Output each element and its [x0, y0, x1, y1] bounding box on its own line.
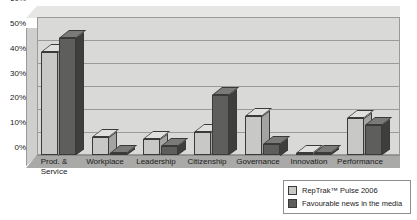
bar-front-face	[143, 139, 160, 155]
x-axis-tick-label: Governance	[229, 157, 287, 167]
bar-reptrak	[92, 137, 109, 155]
chart-legend: RepTrak™ Pulse 2006 Favourable news in t…	[283, 180, 411, 214]
bar-front-face	[110, 153, 127, 155]
x-axis-tick-label: Leadership	[127, 157, 185, 167]
bar-favourable	[161, 146, 178, 155]
legend-label: Favourable news in the media	[302, 199, 402, 208]
x-axis-tick-label: Performance	[331, 157, 389, 167]
bar-front-face	[92, 137, 109, 155]
bar-side-face	[229, 89, 237, 155]
bar-reptrak	[296, 153, 313, 155]
bar-favourable	[59, 38, 76, 155]
x-axis-tick-label: Citizenship	[178, 157, 236, 167]
legend-item: Favourable news in the media	[288, 197, 406, 210]
bar-front-face	[296, 153, 313, 155]
legend-label: RepTrak™ Pulse 2006	[302, 186, 378, 195]
bar-favourable	[110, 153, 127, 155]
bar-front-face	[365, 125, 382, 155]
bar-favourable	[314, 153, 331, 155]
bar-front-face	[59, 38, 76, 155]
x-axis-tick-label: Workplace	[76, 157, 134, 167]
bar-reptrak	[143, 139, 160, 155]
bar-front-face	[245, 116, 262, 155]
bar-front-face	[314, 153, 331, 155]
bar-reptrak	[194, 132, 211, 155]
x-axis-tick-label: Prod. &Service	[25, 157, 83, 177]
bar-reptrak	[347, 118, 364, 155]
bar-side-face	[382, 119, 390, 155]
bar-favourable	[263, 144, 280, 156]
legend-swatch-icon	[288, 186, 297, 195]
bar-front-face	[161, 146, 178, 155]
plot-area: 60%50%40%30%20%10%0%	[0, 0, 417, 175]
bar-chart: 60%50%40%30%20%10%0% Prod. &ServiceWorkp…	[0, 0, 417, 220]
legend-item: RepTrak™ Pulse 2006	[288, 184, 406, 197]
legend-swatch-icon	[288, 199, 297, 208]
bar-favourable	[365, 125, 382, 155]
bar-front-face	[194, 132, 211, 155]
x-axis-tick-label: Innovation	[280, 157, 338, 167]
bar-front-face	[347, 118, 364, 155]
bar-series-group	[0, 0, 417, 175]
bar-favourable	[212, 95, 229, 155]
bar-front-face	[212, 95, 229, 155]
bar-reptrak	[245, 116, 262, 155]
bar-side-face	[76, 32, 84, 155]
bar-front-face	[263, 144, 280, 156]
bar-front-face	[41, 52, 58, 156]
bar-reptrak	[41, 52, 58, 156]
